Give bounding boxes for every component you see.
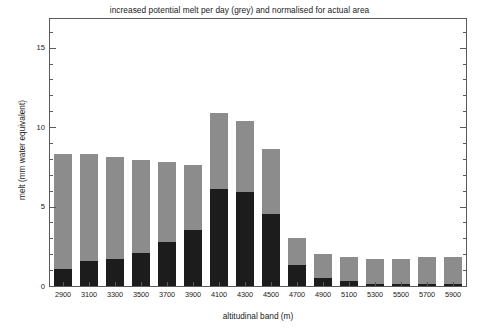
x-tick-label: 5700 [419, 290, 435, 299]
y-tick-minor-right [463, 238, 466, 239]
y-tick-minor-right [463, 111, 466, 112]
x-tick [245, 282, 246, 286]
y-tick-minor [50, 222, 53, 223]
bar-segment-black [262, 214, 281, 286]
x-tick [271, 282, 272, 286]
x-tick [427, 282, 428, 286]
chart-figure: increased potential melt per day (grey) … [0, 0, 479, 333]
x-tick-label: 5500 [393, 290, 409, 299]
x-axis-label: altitudinal band (m) [49, 311, 467, 321]
bar-group [184, 165, 203, 286]
bar-group [288, 238, 307, 286]
y-tick-minor [50, 175, 53, 176]
y-tick-minor-right [463, 32, 466, 33]
y-tick-major [50, 286, 56, 287]
x-tick-label: 4900 [315, 290, 331, 299]
x-tick-label: 4500 [263, 290, 279, 299]
y-tick-minor [50, 270, 53, 271]
y-tick-major [50, 207, 56, 208]
chart-title: increased potential melt per day (grey) … [0, 5, 479, 15]
y-tick-minor-right [463, 222, 466, 223]
bar-segment-black [236, 192, 255, 286]
y-tick-minor [50, 95, 53, 96]
x-tick-label: 3300 [107, 290, 123, 299]
y-tick-minor [50, 191, 53, 192]
bar-group [210, 113, 229, 286]
x-tick [219, 282, 220, 286]
bar-segment-black [158, 242, 177, 287]
plot-area [49, 18, 467, 287]
y-tick-minor-right [463, 254, 466, 255]
x-tick-label: 3100 [81, 290, 97, 299]
y-tick-minor-right [463, 143, 466, 144]
y-axis-label: melt (mm water equivalent) [17, 50, 27, 250]
y-tick-minor-right [463, 270, 466, 271]
y-tick-minor [50, 159, 53, 160]
y-tick-minor [50, 254, 53, 255]
x-tick [63, 282, 64, 286]
y-tick-major-right [460, 207, 466, 208]
x-tick-label: 4300 [237, 290, 253, 299]
y-tick-label: 10 [27, 123, 45, 132]
bar-group [132, 160, 151, 286]
x-tick-label: 4700 [289, 290, 305, 299]
x-tick [167, 282, 168, 286]
y-tick-minor [50, 238, 53, 239]
bar-segment-black [184, 230, 203, 286]
x-tick-label: 3500 [133, 290, 149, 299]
y-tick-major [50, 48, 56, 49]
y-tick-minor-right [463, 191, 466, 192]
x-tick [115, 282, 116, 286]
y-tick-minor [50, 143, 53, 144]
x-tick [193, 282, 194, 286]
bar-segment-black [132, 253, 151, 286]
y-tick-minor-right [463, 95, 466, 96]
bar-segment-grey [54, 154, 73, 286]
y-tick-major [50, 127, 56, 128]
bar-group [80, 154, 99, 286]
y-tick-label: 5 [27, 202, 45, 211]
x-tick [401, 282, 402, 286]
x-tick-label: 2900 [55, 290, 71, 299]
y-tick-minor-right [463, 175, 466, 176]
bar-group [54, 154, 73, 286]
y-tick-minor-right [463, 159, 466, 160]
x-tick [141, 282, 142, 286]
y-tick-minor [50, 32, 53, 33]
y-tick-minor [50, 79, 53, 80]
x-tick-label: 3700 [159, 290, 175, 299]
y-tick-major-right [460, 48, 466, 49]
x-tick [349, 282, 350, 286]
bar-group [158, 162, 177, 286]
y-tick-label: 15 [27, 43, 45, 52]
x-tick [453, 282, 454, 286]
x-tick [323, 282, 324, 286]
x-tick-label: 5900 [445, 290, 461, 299]
x-tick-label: 4100 [211, 290, 227, 299]
bar-group [262, 149, 281, 286]
y-tick-minor-right [463, 79, 466, 80]
x-tick-label: 3900 [185, 290, 201, 299]
x-tick [89, 282, 90, 286]
x-tick [375, 282, 376, 286]
bar-group [106, 157, 125, 286]
y-tick-minor [50, 111, 53, 112]
x-tick-label: 5100 [341, 290, 357, 299]
y-tick-minor [50, 64, 53, 65]
bar-group [236, 121, 255, 286]
bar-segment-black [210, 189, 229, 286]
y-tick-major-right [460, 127, 466, 128]
y-tick-label: 0 [27, 282, 45, 291]
bars-layer [50, 19, 466, 286]
y-tick-minor-right [463, 64, 466, 65]
x-tick-label: 5300 [367, 290, 383, 299]
y-tick-major-right [460, 286, 466, 287]
x-tick [297, 282, 298, 286]
